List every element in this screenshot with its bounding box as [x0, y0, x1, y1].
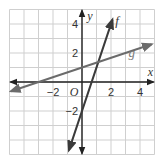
y-tick-label: 2 — [72, 47, 78, 59]
x-tick-label: 2 — [108, 86, 114, 98]
coordinate-plane: −22442−2Oxyfg — [0, 0, 158, 163]
x-axis-label: x — [147, 65, 154, 79]
x-tick-label: −2 — [47, 86, 60, 98]
y-tick-label: −2 — [65, 105, 78, 117]
y-axis-label: y — [86, 9, 93, 23]
y-tick-label: 4 — [72, 18, 78, 30]
x-tick-label: 4 — [137, 86, 143, 98]
function-lines — [11, 20, 152, 151]
axes — [11, 11, 154, 154]
tick-labels: −22442−2Oxyfg — [47, 9, 154, 118]
f-label: f — [115, 13, 121, 28]
g-label: g — [128, 45, 135, 60]
origin-label: O — [70, 85, 79, 99]
